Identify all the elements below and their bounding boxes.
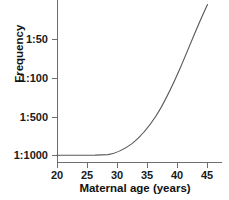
x-tick-label-40: 40	[171, 170, 183, 181]
x-tick-label-35: 35	[141, 170, 153, 181]
frequency-curve	[57, 5, 208, 156]
x-axis-ticks	[58, 163, 208, 169]
x-tick-label-20: 20	[51, 170, 63, 181]
chart-figure: 1:50 1:100 1:500 1:1000 20 25 30 35 40 4…	[0, 0, 229, 200]
y-axis-title: Frequency	[14, 6, 26, 102]
y-tick-label-1-500: 1:500	[0, 112, 48, 123]
y-tick-label-1-1000: 1:1000	[0, 150, 48, 161]
x-tick-label-30: 30	[111, 170, 123, 181]
y-axis-ticks	[52, 40, 58, 156]
x-tick-label-45: 45	[201, 170, 213, 181]
x-axis-title: Maternal age (years)	[45, 183, 225, 195]
x-tick-label-25: 25	[81, 170, 93, 181]
